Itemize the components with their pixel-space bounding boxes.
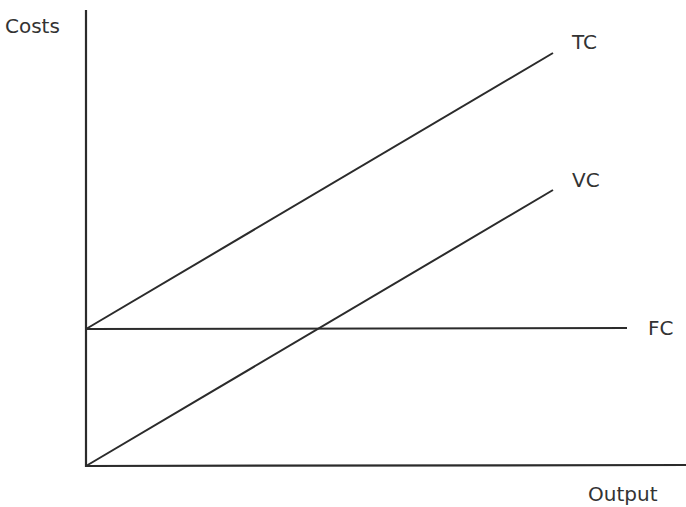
x-axis	[85, 465, 686, 466]
x-axis-label: Output	[588, 484, 657, 504]
tc-line	[86, 53, 553, 329]
vc-label: VC	[572, 170, 600, 190]
fc-line	[86, 328, 627, 329]
y-axis-label: Costs	[5, 16, 60, 36]
tc-label: TC	[572, 32, 597, 52]
cost-curves-chart	[0, 0, 686, 507]
fc-label: FC	[648, 318, 673, 338]
